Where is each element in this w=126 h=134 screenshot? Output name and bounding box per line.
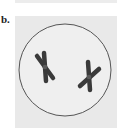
panel-label: b.	[1, 14, 10, 25]
previous-panel-edge	[15, 0, 117, 3]
cell-diagram-panel	[15, 16, 117, 128]
